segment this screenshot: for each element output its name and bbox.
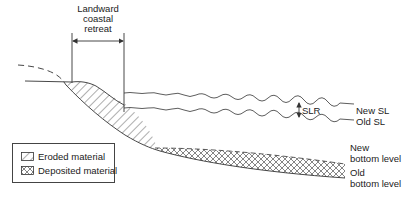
retreat-label-line-3: retreat — [70, 24, 126, 34]
old-bottom-label-1: Old — [350, 168, 365, 178]
legend-item-eroded: Eroded material — [21, 151, 105, 162]
diagonal-hatch-icon — [21, 152, 34, 161]
new-bottom-label-2: bottom level — [350, 154, 401, 164]
legend: Eroded material Deposited material — [12, 143, 115, 183]
deposited-material-area — [155, 148, 345, 178]
retreat-label: Landward coastal retreat — [70, 4, 126, 34]
land-surface-line — [25, 81, 72, 82]
old-sl-label: Old SL — [356, 117, 385, 127]
slr-label: SLR — [302, 106, 320, 116]
legend-label-deposited: Deposited material — [38, 165, 117, 176]
new-bottom-label-1: New — [350, 143, 369, 153]
new-sl-label: New SL — [356, 106, 389, 116]
cross-hatch-icon — [21, 166, 34, 175]
old-bottom-label-2: bottom level — [350, 179, 401, 189]
legend-label-eroded: Eroded material — [38, 151, 105, 162]
legend-item-deposited: Deposited material — [21, 165, 117, 176]
eroded-material-area — [65, 82, 158, 150]
